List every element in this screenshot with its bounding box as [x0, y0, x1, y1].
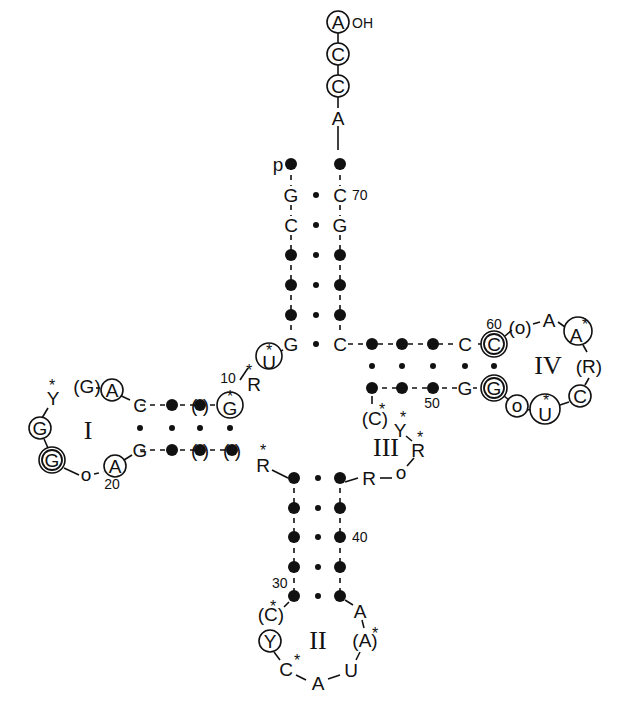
nucleotide-A76: A [332, 12, 345, 33]
number-60: 60 [486, 316, 502, 332]
number-20: 20 [104, 476, 120, 492]
acceptor-stem: p G C 70 C G G C [273, 154, 368, 355]
nucleotide: G [333, 215, 348, 236]
nucleotide-U36: U [344, 660, 358, 681]
modification-star: * [417, 429, 423, 446]
nucleotide: G [284, 185, 299, 206]
oh-label: OH [352, 15, 373, 31]
number-70: 70 [352, 187, 368, 203]
modification-star: * [582, 316, 588, 333]
nucleotide: A [109, 456, 122, 477]
nucleotide-A: A [543, 310, 556, 331]
nucleotide-R26: R [256, 455, 270, 476]
modification-star: * [270, 598, 276, 615]
phosphate-label: p [273, 154, 284, 175]
modification-star: * [543, 392, 549, 409]
d-arm: * U * R 10 * G C ( ) G ( ) ( ) * R A (G)… [29, 342, 288, 493]
nucleotide: G [284, 334, 299, 355]
nucleotide-A58: A [570, 325, 583, 346]
arm-label-I: I [84, 416, 93, 445]
nucleotide-o: o [512, 395, 523, 416]
nucleotide-A35: A [312, 673, 325, 694]
nucleotide-R44: R [362, 468, 376, 489]
arm-label-III: III [373, 433, 399, 462]
modification-star: * [379, 401, 385, 418]
arm-label-II: II [309, 626, 326, 655]
nucleotide-A73: A [332, 108, 345, 129]
nucleotide: G [458, 378, 473, 399]
nucleotide-C75: C [331, 44, 345, 65]
number-50: 50 [424, 395, 440, 411]
nucleotide: C [284, 215, 298, 236]
acceptor-end: A OH C C A [327, 11, 373, 150]
nucleotide-Y: Y [264, 631, 277, 652]
nucleotide-G53: G [487, 378, 502, 399]
modification-star: * [400, 409, 406, 426]
nucleotide-G10: G [223, 398, 238, 419]
number-30: 30 [272, 575, 288, 591]
nucleotide-C: C [573, 386, 587, 407]
nucleotide-o: o [396, 462, 407, 483]
nucleotide-U8: U [262, 352, 276, 373]
nucleotide-C34: C [279, 659, 293, 680]
nucleotide-C61: C [487, 334, 501, 355]
optional-o: (o) [508, 317, 531, 338]
nucleotide-R9: R [247, 374, 261, 395]
nucleotide: C [333, 185, 347, 206]
modification-star: * [294, 652, 300, 669]
nucleotide: G [45, 450, 60, 471]
nucleotide: A [106, 380, 119, 401]
nucleotide-Y: Y [47, 388, 60, 409]
number-40: 40 [352, 529, 368, 545]
nucleotide: G [33, 418, 48, 439]
arm-label-IV: IV [534, 351, 562, 380]
nucleotide: C [333, 334, 347, 355]
nucleotide-o: o [81, 464, 92, 485]
nucleotide-A38: A [354, 601, 367, 622]
trna-cloverleaf-diagram: A OH C C A p G C 70 C G G C [0, 0, 633, 720]
number-10: 10 [220, 370, 236, 386]
anticodon-arm: 40 30 R (C) * Y C * A U (A) * A II [258, 468, 378, 694]
nucleotide: C [133, 395, 147, 416]
optional-G: (G) [73, 376, 100, 397]
nucleotide: C [458, 334, 472, 355]
modification-star: * [372, 625, 378, 642]
nucleotide: G [133, 440, 148, 461]
nucleotide-C74: C [331, 76, 345, 97]
optional-R: (R) [576, 356, 602, 377]
